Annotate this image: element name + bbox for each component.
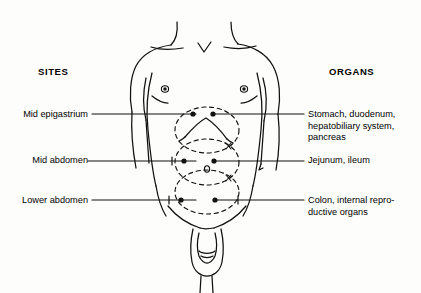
right-pectoral-crease [241,96,257,103]
site-dot-mid-abdomen-right [211,158,216,163]
organ-label-middle-line-1: Jejunum, ileum [308,155,420,167]
organs-column-header: ORGANS [329,66,374,77]
site-dot-epigastrium-right [210,111,215,116]
diagram-page: SITES ORGANS Mid epigastrium Mid abdomen… [0,0,421,293]
navel [204,166,209,172]
organ-label-lower-line-2: ductive organs [308,207,420,219]
sternal-notch-v [198,42,211,52]
glans-line-2 [201,256,213,258]
organ-label-middle: Jejunum, ileum [308,155,420,167]
site-dot-mid-abdomen-left [181,158,186,163]
right-arm-tip [259,164,263,170]
glans-line [199,251,215,253]
scrotum-outline [191,229,223,276]
organ-label-upper-line-3: pancreas [308,132,420,144]
organ-label-upper-line-2: hepatobiliary system, [308,121,420,133]
right-leg-line [212,276,213,293]
site-label-lower-abdomen: Lower abdomen [22,195,88,206]
left-torso-flank [147,73,156,186]
pubic-line [200,228,214,229]
organ-label-lower: Colon, internal repro- ductive organs [308,195,420,218]
right-hip-line [243,186,253,216]
left-leg-line [200,276,201,293]
left-outer-arm [132,112,136,168]
neck-right-line [231,22,238,44]
left-nipple-center [164,88,166,90]
organ-label-upper-line-1: Stomach, duodenum, [308,109,420,121]
right-inguinal-crease [214,206,246,228]
organ-label-lower-line-1: Colon, internal repro- [308,195,420,207]
penis-outline [198,233,217,263]
site-dot-lower-abdomen-left [178,197,183,202]
torso-diagram-svg [0,0,421,293]
right-nipple-center [243,88,245,90]
right-outer-arm [276,114,279,170]
neck-left-line [171,22,177,45]
sites-column-header: SITES [38,66,68,77]
left-hip-line [156,186,166,216]
site-dot-epigastrium-left [190,111,195,116]
site-label-mid-abdomen: Mid abdomen [32,155,88,166]
left-pectoral-crease [152,96,168,103]
left-inguinal-crease [168,206,200,228]
costal-left-tail [179,137,185,141]
site-dot-lower-abdomen-right [212,197,217,202]
costal-right-tail [227,139,233,143]
costal-margin-arch [185,118,227,139]
site-label-mid-epigastrium: Mid epigastrium [23,109,88,120]
organ-label-upper: Stomach, duodenum, hepatobiliary system,… [308,109,420,144]
